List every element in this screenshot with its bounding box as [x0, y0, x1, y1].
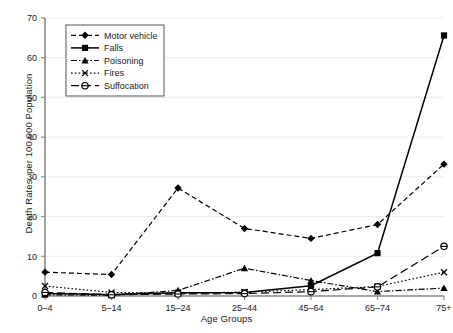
data-point-legend-1	[82, 45, 88, 51]
data-point-6	[441, 32, 447, 38]
data-point-1	[108, 292, 114, 298]
x-axis-title: Age Groups	[0, 313, 453, 324]
data-point-5	[374, 250, 380, 256]
chart-legend: Motor vehicleFallsPoisoningFiresSuffocat…	[66, 25, 164, 96]
chart-plot-area: 010203040506070 0–45–1415–2425–4445–6465…	[0, 0, 453, 333]
x-tick-label: 65–74	[365, 303, 390, 313]
data-point-legend-4	[82, 83, 88, 89]
data-point-6	[441, 243, 447, 249]
y-tick-label: 0	[32, 291, 37, 301]
legend-label: Motor vehicle	[104, 31, 158, 41]
data-point-5	[374, 284, 380, 290]
line-chart: 010203040506070 0–45–1415–2425–4445–6465…	[0, 0, 453, 333]
y-axis-title: Death Rates, per 100,000 Population	[23, 64, 34, 244]
legend-label: Falls	[104, 43, 124, 53]
y-tick-label: 60	[27, 53, 37, 63]
data-point-3	[241, 290, 247, 296]
legend-label: Fires	[104, 68, 124, 78]
x-tick-label: 5–14	[101, 303, 121, 313]
y-tick-label: 10	[27, 252, 37, 262]
legend-label: Suffocation	[104, 81, 149, 91]
y-tick-label: 70	[27, 13, 37, 23]
x-tick-label: 45–64	[298, 303, 323, 313]
x-tick-label: 75+	[436, 303, 451, 313]
data-point-0	[42, 289, 48, 295]
legend-label: Poisoning	[104, 56, 144, 66]
x-tick-label: 25–44	[232, 303, 257, 313]
data-point-2	[175, 291, 181, 297]
data-point-4	[308, 288, 314, 294]
x-tick-label: 15–24	[165, 303, 190, 313]
x-tick-label: 0–4	[37, 303, 52, 313]
